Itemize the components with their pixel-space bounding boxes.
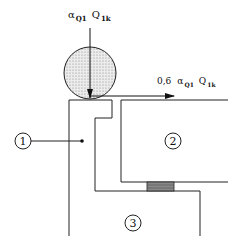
horizontal-load-label: 0,6αQ1Q1k [157, 76, 216, 89]
marker-2: 2 [165, 133, 181, 149]
marker-1: 1 [15, 133, 84, 149]
vertical-load-label: αQ1Q1k [68, 9, 111, 23]
svg-text:3: 3 [130, 217, 137, 230]
svg-text:2: 2 [170, 135, 177, 148]
marker-3: 3 [125, 215, 141, 231]
svg-text:1: 1 [20, 135, 27, 148]
bearing-pad [147, 182, 174, 191]
bridge-abutment-diagram: αQ1Q1k 0,6αQ1Q1k 1 2 3 [0, 0, 238, 247]
